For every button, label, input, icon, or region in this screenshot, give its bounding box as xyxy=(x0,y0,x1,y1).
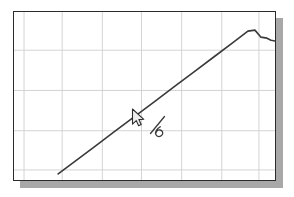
plot-inner-area xyxy=(14,12,275,180)
data-series-curve xyxy=(14,12,275,180)
line-plot[interactable] xyxy=(13,11,276,181)
curve-polyline xyxy=(58,30,275,174)
screenshot-root xyxy=(0,0,294,197)
